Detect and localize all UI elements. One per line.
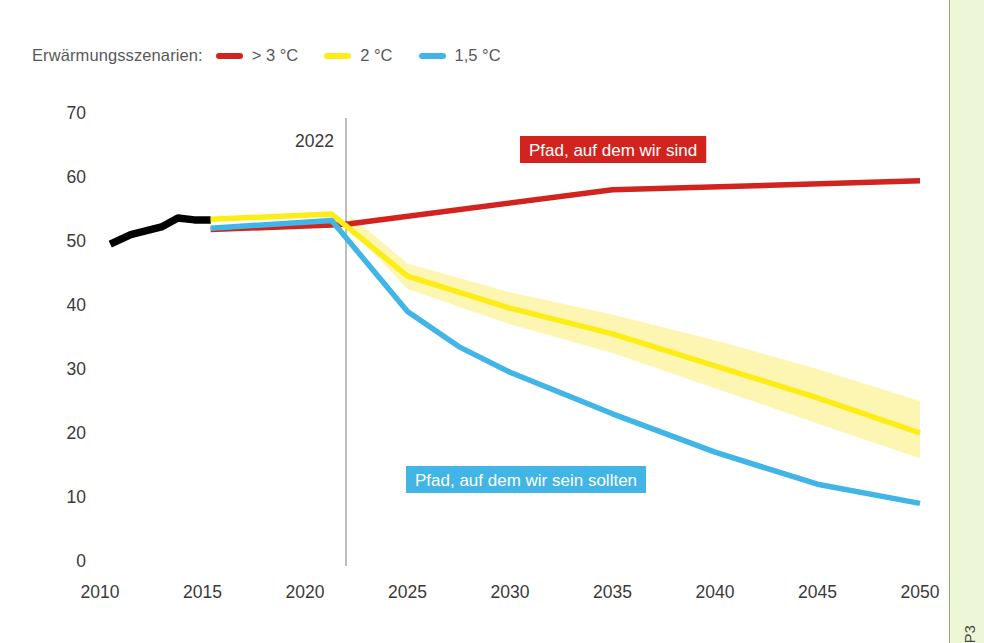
y-axis-tick-label: 10 (67, 487, 87, 507)
x-axis-tick-label: 2015 (183, 582, 222, 602)
series-line (110, 218, 210, 244)
callout-current-path: Pfad, auf dem wir sind (529, 141, 697, 160)
chart-plot: 0102030405060702010201520202025203020352… (0, 0, 984, 643)
x-axis-tick-label: 2040 (696, 582, 735, 602)
callout-target-path: Pfad, auf dem wir sein sollten (415, 471, 637, 490)
y-axis-tick-label: 30 (67, 359, 87, 379)
x-axis-tick-label: 2050 (901, 582, 940, 602)
series-line (211, 221, 920, 504)
y-axis-tick-label: 70 (67, 103, 87, 123)
x-axis-tick-label: 2010 (81, 582, 120, 602)
x-axis-tick-label: 2045 (798, 582, 837, 602)
y-axis-tick-label: 40 (67, 295, 87, 315)
y-axis-tick-label: 20 (67, 423, 87, 443)
y-axis-tick-label: 0 (76, 551, 86, 571)
source-label: Quelle: IPCC, 6. Bericht WP3 (962, 625, 978, 643)
source-strip: Quelle: IPCC, 6. Bericht WP3 (949, 0, 984, 643)
x-axis-tick-label: 2030 (491, 582, 530, 602)
y-axis-tick-label: 50 (67, 231, 87, 251)
year-marker-label: 2022 (295, 131, 334, 151)
y-axis-tick-label: 60 (67, 167, 87, 187)
x-axis-tick-label: 2025 (388, 582, 427, 602)
chart-page: Erwärmungsszenarien: > 3 °C 2 °C 1,5 °C … (0, 0, 984, 643)
x-axis-tick-label: 2035 (593, 582, 632, 602)
x-axis-tick-label: 2020 (286, 582, 325, 602)
